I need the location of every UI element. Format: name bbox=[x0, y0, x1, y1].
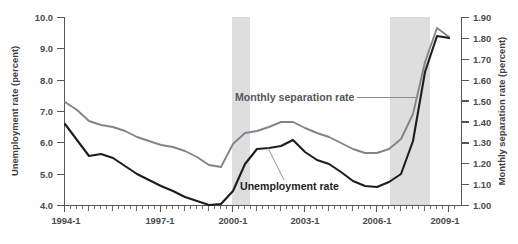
separation-rate-annotation-text: Monthly separation rate bbox=[235, 91, 355, 103]
y-right-label-140: 1.40 bbox=[473, 117, 491, 128]
x-label-2003: 2003-1 bbox=[290, 215, 319, 226]
y-axis-left-title: Unemployment rate (percent) bbox=[9, 46, 20, 176]
y-left-label-7: 7.0 bbox=[40, 106, 53, 117]
chart-figure: 10.0 9.0 8.0 7.0 6.0 5.0 4.0 Unemploymen… bbox=[0, 0, 518, 244]
y-left-label-8: 8.0 bbox=[40, 75, 53, 86]
unemployment-rate-leader-line bbox=[268, 148, 284, 180]
x-axis: 1994-1 1997-1 2000-1 2003-1 2006-1 2009-… bbox=[51, 206, 461, 227]
y-right-label-130: 1.30 bbox=[473, 137, 491, 148]
x-axis-minor-ticks bbox=[71, 206, 455, 212]
y-left-label-5: 5.0 bbox=[40, 169, 53, 180]
unemployment-rate-annotation-text: Unemployment rate bbox=[240, 180, 339, 192]
y-left-label-9: 9.0 bbox=[40, 43, 53, 54]
y-left-label-6: 6.0 bbox=[40, 137, 53, 148]
x-label-1994: 1994-1 bbox=[51, 215, 80, 226]
y-right-label-170: 1.70 bbox=[473, 54, 491, 65]
annotation-unemployment-rate: Unemployment rate bbox=[240, 148, 339, 192]
y-right-label-100: 1.00 bbox=[473, 200, 491, 211]
x-label-2006: 2006-1 bbox=[362, 215, 391, 226]
line-chart: 10.0 9.0 8.0 7.0 6.0 5.0 4.0 Unemploymen… bbox=[0, 0, 518, 244]
y-right-label-190: 1.90 bbox=[473, 12, 491, 23]
y-right-label-120: 1.20 bbox=[473, 158, 491, 169]
y-right-label-160: 1.60 bbox=[473, 75, 491, 86]
y-axis-right: 1.90 1.80 1.70 1.60 1.50 1.40 1.30 1.20 … bbox=[462, 12, 508, 211]
recession-band-2001 bbox=[232, 17, 250, 205]
y-right-label-110: 1.10 bbox=[473, 179, 491, 190]
y-right-label-180: 1.80 bbox=[473, 33, 491, 44]
y-left-label-4: 4.0 bbox=[40, 200, 53, 211]
x-label-2009: 2009-1 bbox=[430, 215, 459, 226]
y-right-label-150: 1.50 bbox=[473, 96, 491, 107]
annotation-separation-rate: Monthly separation rate bbox=[235, 91, 417, 103]
recession-shading-group bbox=[232, 17, 430, 205]
y-left-label-10: 10.0 bbox=[35, 12, 53, 23]
x-label-1997: 1997-1 bbox=[145, 215, 174, 226]
y-axis-right-title: Monthly separation rate (percent) bbox=[496, 37, 507, 185]
y-axis-left: 10.0 9.0 8.0 7.0 6.0 5.0 4.0 Unemploymen… bbox=[9, 12, 65, 211]
x-label-2000: 2000-1 bbox=[218, 215, 247, 226]
